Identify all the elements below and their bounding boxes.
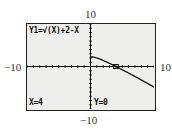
graph-plot xyxy=(27,24,154,109)
ymax-label: 10 xyxy=(85,9,96,20)
x-trace-readout: X=4 xyxy=(29,99,43,107)
calculator-graph-screen: Y1=√(X)+2-X X=4 Y=0 xyxy=(26,23,156,111)
equation-label: Y1=√(X)+2-X xyxy=(29,27,79,35)
function-curve xyxy=(91,57,155,87)
xmax-label: 10 xyxy=(160,62,171,73)
xmin-label: −10 xyxy=(4,62,21,73)
y-trace-readout: Y=0 xyxy=(94,99,108,107)
ymin-label: −10 xyxy=(80,115,97,126)
